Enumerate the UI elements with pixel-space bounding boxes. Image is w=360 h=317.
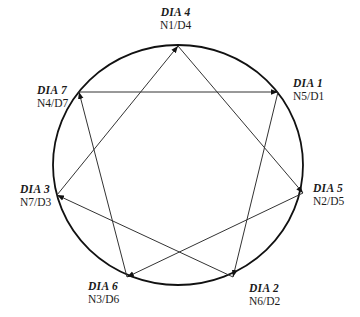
- node-label-dia2: DIA 2 N6/D2: [249, 282, 280, 308]
- node-subtitle: N5/D1: [293, 90, 324, 103]
- node-subtitle: N4/D7: [37, 97, 68, 110]
- node-label-dia4: DIA 4 N1/D4: [160, 6, 191, 32]
- edge-dia6-to-dia7: [79, 92, 127, 277]
- node-label-dia5: DIA 5 N2/D5: [313, 182, 344, 208]
- edge-dia2-to-dia3: [57, 195, 233, 277]
- node-label-dia1: DIA 1 N5/D1: [293, 77, 324, 103]
- node-subtitle: N2/D5: [313, 195, 344, 208]
- outer-circle: [53, 45, 303, 285]
- node-label-dia3: DIA 3 N7/D3: [20, 183, 51, 209]
- edge-dia5-to-dia6: [127, 193, 303, 277]
- node-subtitle: N6/D2: [249, 295, 280, 308]
- node-title: DIA 4: [160, 6, 191, 19]
- node-title: DIA 7: [37, 84, 68, 97]
- node-subtitle: N3/D6: [88, 293, 119, 306]
- node-subtitle: N7/D3: [20, 196, 51, 209]
- diagram-canvas: [0, 0, 360, 317]
- node-title: DIA 2: [249, 282, 280, 295]
- edge-dia4-to-dia5: [178, 46, 303, 193]
- node-title: DIA 6: [88, 280, 119, 293]
- node-subtitle: N1/D4: [160, 19, 191, 32]
- heptagram-diagram: DIA 4 N1/D4 DIA 1 N5/D1 DIA 5 N2/D5 DIA …: [0, 0, 360, 317]
- node-title: DIA 1: [293, 77, 324, 90]
- node-label-dia6: DIA 6 N3/D6: [88, 280, 119, 306]
- edge-dia3-to-dia4: [57, 46, 178, 195]
- node-title: DIA 5: [313, 182, 344, 195]
- node-title: DIA 3: [20, 183, 51, 196]
- node-label-dia7: DIA 7 N4/D7: [37, 84, 68, 110]
- edge-dia1-to-dia2: [233, 92, 278, 277]
